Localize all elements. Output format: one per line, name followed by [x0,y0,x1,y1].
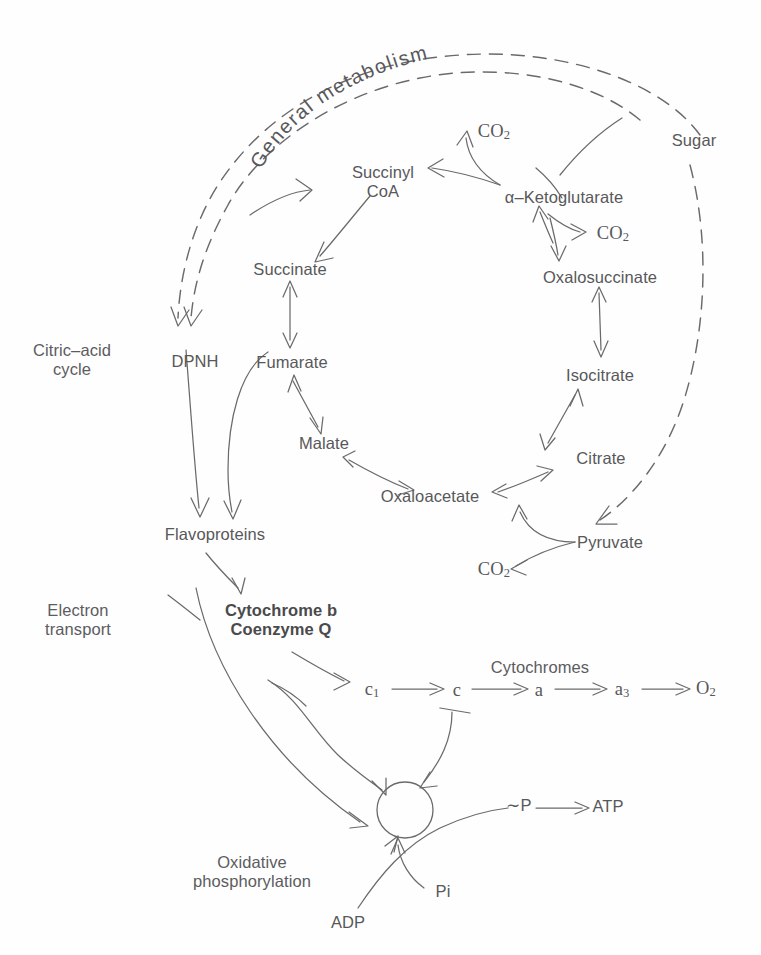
oxalosuccinate-isocitrate [599,293,601,350]
flavoproteins-to-cytb [206,553,238,588]
isocitrate-arrowhead-up2 [570,389,583,406]
dpnh-to-flavoproteins [186,350,199,508]
node-cytochrome-a3: a3 [615,679,630,702]
dashed-arc-inner-arrowhead [184,307,202,326]
c-coupling-tick [440,708,470,713]
flavoprotein-coupling-arrowhead [349,812,368,828]
pyruvate-to-co2 [516,542,575,566]
dashed-arc-outer-arrowhead [171,307,189,326]
node-oxygen: O2 [696,678,716,701]
pyruvate-to-co2-arrowhead [511,560,527,575]
node-co2-from-oxalosuccinate: CO2 [597,223,629,246]
node-malate: Malate [299,434,349,453]
c-coupling-arrowhead [420,772,437,788]
node-cytochrome-b-coenzyme-q: Cytochrome b Coenzyme Q [225,601,337,640]
node-sugar: Sugar [672,131,717,150]
node-co2-from-ketoglutarate: CO2 [478,121,510,144]
ketoglutarate-to-oxalosuccinate [550,218,558,255]
flavoproteins-to-cytb-arrowhead [232,578,245,594]
co2-subscript-1: 2 [504,128,510,142]
succinylcoa-to-succinate [320,196,370,256]
node-adp: ADP [331,913,365,932]
dpnh-to-flavoproteins-arrowhead [191,498,209,517]
node-oxaloacetate: Oxaloacetate [381,487,479,506]
node-flavoproteins: Flavoproteins [165,525,265,544]
oxaloacetate-citrate [498,472,548,492]
section-label-citric-acid-cycle: Citric–acid cycle [33,341,111,380]
fumarate-to-flavoproteins-arrowhead [224,500,241,519]
section-label-electron-transport: Electron transport [45,601,111,640]
node-succinate: Succinate [253,260,326,279]
cytb-to-c1 [292,652,344,681]
malate-oxaloacetate [349,460,408,489]
a3-subscript: 3 [623,686,629,700]
pathway-lines: General metabolism [0,0,761,955]
node-fumarate: Fumarate [256,353,327,372]
node-cytochrome-a: a [535,680,543,702]
isocitrate-citrate [548,395,575,443]
pyruvate-to-oxaloacetate-arrowhead [512,505,527,521]
c-coupling-curve [424,712,452,782]
pyruvate-to-oxaloacetate [520,512,575,542]
ketoglutarate-to-oxalosuccinate-arrowhead [551,246,566,261]
node-dpnh: DPNH [171,352,218,371]
node-co2-from-pyruvate: CO2 [478,559,510,582]
feedback-barb-left [250,190,310,215]
pi-to-coupling [398,845,424,888]
node-citrate: Citrate [576,449,625,468]
co2-subscript-2: 2 [623,230,629,244]
fumarate-to-flavoproteins [228,352,268,512]
co2-subscript-3: 2 [504,566,510,580]
metabolism-diagram: General metabolism Citric–acid cycle Ele… [0,0,761,955]
cycle-top-right-curve [560,118,622,175]
ketoglutarate-to-co2-arrowhead [457,131,473,147]
coupling-tick-upper [168,595,200,620]
coupling-site-circle [377,782,433,838]
node-cytochrome-c: c [453,680,461,702]
node-atp: ATP [592,797,623,816]
node-pyruvate: Pyruvate [577,533,643,552]
o2-subscript: 2 [710,685,716,699]
section-label-cytochromes: Cytochromes [491,658,589,677]
ketoglutarate-to-co2 [466,138,500,185]
node-succinyl-coa: Succinyl CoA [352,163,414,202]
section-label-oxidative-phosphorylation: Oxidative phosphorylation [193,853,311,892]
node-cytochrome-c1: c1 [365,679,380,702]
node-oxalosuccinate: Oxalosuccinate [543,268,657,287]
fumarate-malate [293,381,318,427]
node-high-energy-phosphate: ∼P [506,796,531,815]
cytb-to-c1-arrowhead [334,673,350,690]
citrate-arrowhead-down2 [540,434,555,450]
c1-subscript: 1 [373,686,379,700]
node-alpha-ketoglutarate: α–Ketoglutarate [505,188,623,207]
node-isocitrate: Isocitrate [566,366,634,385]
node-pi: Pi [436,882,451,901]
